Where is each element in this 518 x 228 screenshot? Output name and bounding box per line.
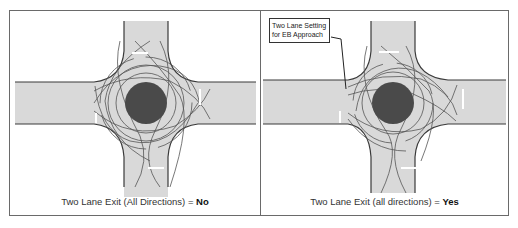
callout-two-lane-setting: Two Lane Setting for EB Approach <box>269 18 330 43</box>
panel-caption: Two Lane Exit (all directions) = Yes <box>261 196 508 207</box>
callout-line-1: Two Lane Setting <box>272 21 327 30</box>
caption-value: Yes <box>442 196 458 207</box>
roundabout-diagram-left <box>10 11 261 217</box>
central-island <box>372 82 414 124</box>
panel-single-lane-exit: Two Lane Exit (All Directions) = No <box>10 11 261 215</box>
panel-caption: Two Lane Exit (All Directions) = No <box>10 196 260 207</box>
caption-label: Two Lane Exit (All Directions) = <box>61 196 196 207</box>
central-island <box>125 82 167 124</box>
callout-line-2: for EB Approach <box>272 30 327 39</box>
figure-frame: Two Lane Exit (All Directions) = No <box>9 10 509 216</box>
panel-two-lane-exit: Two Lane Setting for EB Approach Two Lan… <box>261 11 508 215</box>
caption-label: Two Lane Exit (all directions) = <box>310 196 442 207</box>
caption-value: No <box>196 196 209 207</box>
